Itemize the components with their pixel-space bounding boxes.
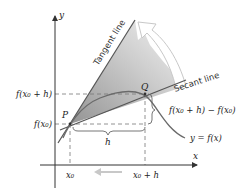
h-brace — [73, 127, 145, 135]
curve-label: y = f(x) — [189, 133, 222, 143]
point-q-label: Q — [141, 82, 149, 92]
difference-label: f(x₀ + h) − f(x₀) — [168, 105, 236, 115]
x-tick-x0: x₀ — [66, 170, 75, 180]
x-tick-x0-h: x₀ + h — [133, 170, 159, 180]
y-axis-label: y — [58, 10, 65, 20]
x-axis-label: x — [193, 151, 198, 161]
point-q — [144, 93, 147, 96]
point-p-label: P — [61, 110, 69, 120]
point-p — [69, 123, 72, 126]
left-arrow-icon — [94, 168, 122, 176]
y-tick-f-x0-h: f(x₀ + h) — [15, 89, 52, 99]
derivative-diagram: y x P Q Tangent line Secant line f(x₀ + … — [0, 0, 248, 192]
diagram-canvas: y x P Q Tangent line Secant line f(x₀ + … — [0, 0, 248, 192]
h-label: h — [105, 137, 111, 147]
y-tick-f-x0: f(x₀) — [33, 119, 52, 129]
